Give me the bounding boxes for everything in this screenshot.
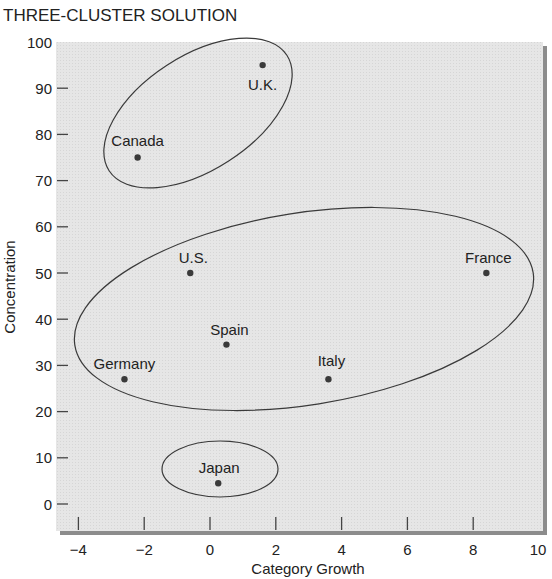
point-germany bbox=[121, 376, 127, 382]
x-tick-label: 6 bbox=[403, 541, 411, 558]
point-japan bbox=[215, 480, 221, 486]
point-label-japan: Japan bbox=[199, 459, 240, 476]
x-tick-label: −4 bbox=[70, 541, 87, 558]
point-spain bbox=[223, 341, 229, 347]
y-tick-label: 80 bbox=[35, 126, 52, 143]
point-us bbox=[187, 270, 193, 276]
y-tick-label: 20 bbox=[35, 403, 52, 420]
y-tick-label: 30 bbox=[35, 357, 52, 374]
plot-area bbox=[56, 42, 543, 531]
point-label-uk: U.K. bbox=[248, 76, 277, 93]
scatter-chart: 0102030405060708090100 −4−20246810 U.K.C… bbox=[0, 0, 552, 579]
y-tick-label: 10 bbox=[35, 449, 52, 466]
point-label-us: U.S. bbox=[179, 249, 208, 266]
y-tick-label: 60 bbox=[35, 218, 52, 235]
x-tick-label: 4 bbox=[337, 541, 345, 558]
point-label-spain: Spain bbox=[210, 321, 248, 338]
y-tick-label: 100 bbox=[27, 34, 52, 51]
point-label-canada: Canada bbox=[111, 132, 164, 149]
x-tick-label: 2 bbox=[272, 541, 280, 558]
x-tick-label: −2 bbox=[136, 541, 153, 558]
point-italy bbox=[325, 376, 331, 382]
point-label-france: France bbox=[465, 249, 512, 266]
y-tick-label: 90 bbox=[35, 80, 52, 97]
point-france bbox=[483, 270, 489, 276]
x-tick-label: 10 bbox=[530, 541, 547, 558]
point-label-italy: Italy bbox=[318, 352, 346, 369]
point-label-germany: Germany bbox=[94, 355, 156, 372]
point-uk bbox=[259, 62, 265, 68]
y-tick-label: 40 bbox=[35, 311, 52, 328]
point-canada bbox=[134, 154, 140, 160]
x-tick-label: 8 bbox=[469, 541, 477, 558]
y-tick-label: 50 bbox=[35, 265, 52, 282]
y-tick-label: 0 bbox=[44, 496, 52, 513]
y-tick-label: 70 bbox=[35, 172, 52, 189]
x-axis-label: Category Growth bbox=[251, 560, 364, 577]
y-axis-label: Concentration bbox=[1, 240, 18, 333]
x-tick-label: 0 bbox=[206, 541, 214, 558]
